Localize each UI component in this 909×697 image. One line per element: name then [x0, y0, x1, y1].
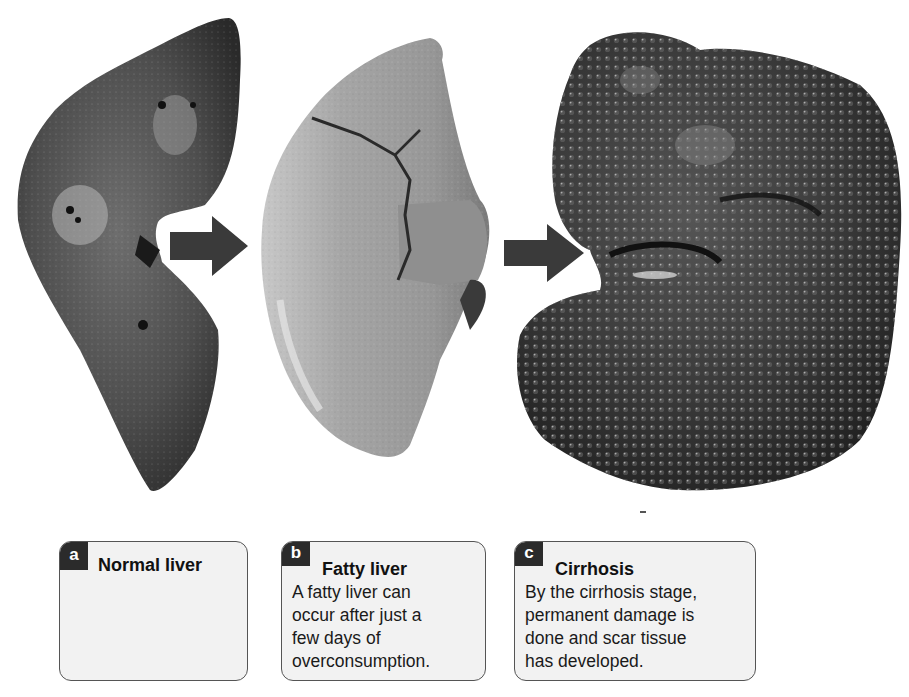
liver-photographs	[0, 0, 909, 520]
caption-box-cirrhosis: c Cirrhosis By the cirrhosis stage, perm…	[514, 541, 756, 681]
panel-description-fatty-liver: A fatty liver can occur after just a few…	[292, 581, 430, 673]
panel-title-fatty-liver: Fatty liver	[322, 559, 407, 580]
cirrhotic-liver-image	[517, 32, 901, 490]
description-line: A fatty liver can	[292, 581, 430, 604]
description-line: done and scar tissue	[525, 627, 697, 650]
caption-box-fatty-liver: b Fatty liver A fatty liver can occur af…	[281, 541, 486, 681]
scale-mark	[640, 511, 646, 513]
panel-label-c: c	[515, 542, 543, 566]
panel-description-cirrhosis: By the cirrhosis stage, permanent damage…	[525, 581, 697, 673]
panel-title-normal-liver: Normal liver	[98, 555, 202, 576]
description-line: permanent damage is	[525, 604, 697, 627]
panel-title-cirrhosis: Cirrhosis	[555, 559, 634, 580]
panel-label-a: a	[60, 542, 88, 570]
description-line: By the cirrhosis stage,	[525, 581, 697, 604]
description-line: overconsumption.	[292, 650, 430, 673]
description-line: has developed.	[525, 650, 697, 673]
caption-box-normal-liver: a Normal liver	[59, 541, 248, 681]
fatty-liver-image	[261, 38, 489, 457]
description-line: occur after just a	[292, 604, 430, 627]
liver-progression-figure	[0, 0, 909, 520]
description-line: few days of	[292, 627, 430, 650]
arrow-right-icon	[170, 216, 248, 276]
panel-label-b: b	[282, 542, 310, 566]
